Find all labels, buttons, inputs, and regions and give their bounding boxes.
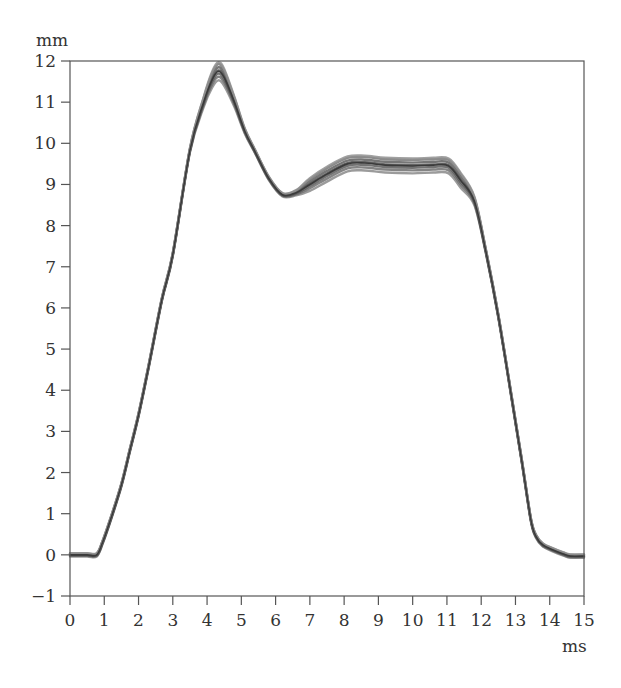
x-tick-label: 12 bbox=[470, 610, 492, 630]
y-axis-unit-label: mm bbox=[36, 30, 68, 50]
y-tick-label: 7 bbox=[45, 257, 56, 277]
y-tick-label: −1 bbox=[31, 586, 56, 606]
y-tick-label: 3 bbox=[45, 421, 56, 441]
x-tick-label: 0 bbox=[65, 610, 76, 630]
y-tick-label: 11 bbox=[34, 92, 56, 112]
y-tick-label: 10 bbox=[34, 133, 56, 153]
x-tick-label: 15 bbox=[573, 610, 595, 630]
x-axis-unit-label: ms bbox=[562, 636, 587, 656]
trace-line bbox=[70, 62, 584, 554]
x-tick-label: 7 bbox=[304, 610, 315, 630]
y-tick-label: 4 bbox=[45, 380, 56, 400]
trace-line bbox=[70, 67, 584, 555]
x-tick-label: 5 bbox=[236, 610, 247, 630]
trace-line bbox=[70, 80, 584, 558]
plot-frame bbox=[70, 61, 584, 596]
x-tick-label: 4 bbox=[202, 610, 213, 630]
y-tick-label: 1 bbox=[45, 504, 56, 524]
x-tick-label: 6 bbox=[270, 610, 281, 630]
y-tick-label: 6 bbox=[45, 298, 56, 318]
x-tick-label: 1 bbox=[99, 610, 110, 630]
line-chart: −10123456789101112 012345678910111213141… bbox=[0, 0, 621, 688]
trace-line bbox=[70, 64, 584, 555]
y-tick-label: 0 bbox=[45, 545, 56, 565]
x-tick-label: 13 bbox=[505, 610, 527, 630]
x-tick-label: 10 bbox=[402, 610, 424, 630]
y-tick-label: 9 bbox=[45, 174, 56, 194]
x-tick-label: 14 bbox=[539, 610, 561, 630]
y-tick-label: 2 bbox=[45, 463, 56, 483]
trace-line bbox=[70, 74, 584, 557]
mean-trace-line bbox=[70, 71, 584, 556]
y-axis: −10123456789101112 bbox=[31, 51, 70, 606]
y-tick-label: 8 bbox=[45, 216, 56, 236]
x-tick-label: 3 bbox=[167, 610, 178, 630]
x-tick-label: 9 bbox=[373, 610, 384, 630]
x-tick-label: 2 bbox=[133, 610, 144, 630]
x-tick-label: 11 bbox=[436, 610, 458, 630]
trace-line bbox=[70, 77, 584, 558]
x-axis: 0123456789101112131415 bbox=[65, 596, 595, 630]
trace-line bbox=[70, 70, 584, 556]
x-tick-label: 8 bbox=[339, 610, 350, 630]
y-tick-label: 5 bbox=[45, 339, 56, 359]
y-tick-label: 12 bbox=[34, 51, 56, 71]
trace-band bbox=[70, 62, 584, 558]
